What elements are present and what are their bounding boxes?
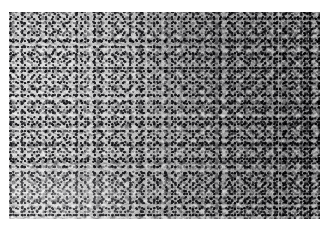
figure-caption (9, 220, 320, 230)
histopathology-micrograph (9, 12, 320, 219)
plate-vignette (9, 12, 320, 219)
figure-page (0, 0, 331, 232)
